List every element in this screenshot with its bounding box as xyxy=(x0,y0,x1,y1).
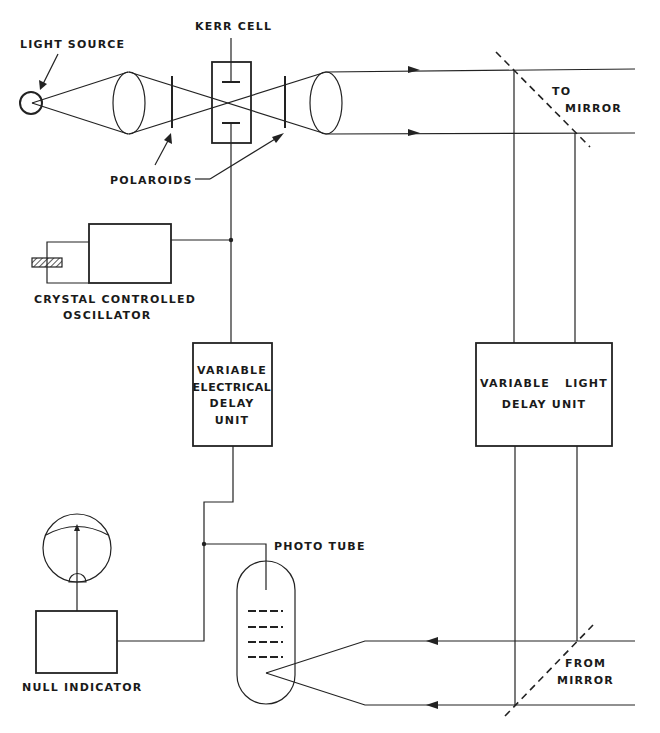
from-mirror-label-2: MIRROR xyxy=(557,674,614,687)
variable-light-delay-unit xyxy=(476,343,612,446)
from-mirror-splitter-icon xyxy=(505,625,593,716)
lens-2-icon xyxy=(310,72,342,134)
from-mirror-label-1: FROM xyxy=(565,657,606,670)
to-mirror-label-2: MIRROR xyxy=(565,102,622,115)
beam-arrow-icon xyxy=(426,637,438,645)
outgoing-beam-top xyxy=(326,69,635,72)
diagram-canvas: LIGHT SOURCE KERR CELL POLAROIDS TO MIRR… xyxy=(0,0,660,733)
elec-delay-label-2: ELECTRICAL xyxy=(193,381,272,394)
meter-needle-tip-icon xyxy=(74,524,80,531)
photo-tube-dynodes xyxy=(248,611,283,657)
oscillator-box xyxy=(89,224,171,283)
variable-electrical-delay-unit xyxy=(193,343,272,446)
elec-delay-label-4: UNIT xyxy=(215,414,250,427)
to-mirror-label-1: TO xyxy=(552,85,571,98)
light-delay-label-1: VARIABLE LIGHT xyxy=(480,377,608,390)
oscillator-label-2: OSCILLATOR xyxy=(63,309,151,322)
photo-tube-label: PHOTO TUBE xyxy=(274,540,366,553)
beam-arrow-icon xyxy=(408,129,420,136)
kerr-cell-label: KERR CELL xyxy=(195,20,272,33)
lens-1-icon xyxy=(113,72,145,134)
null-indicator-box xyxy=(36,611,117,673)
elec-delay-label-1: VARIABLE xyxy=(197,364,267,377)
beam-arrow-icon xyxy=(408,66,420,73)
null-indicator-label: NULL INDICATOR xyxy=(22,681,142,694)
polaroid-arrow-icon xyxy=(272,133,284,143)
light-delay-label-2: DELAY UNIT xyxy=(502,398,587,411)
elec-delay-label-3: DELAY xyxy=(209,397,254,410)
crystal-icon xyxy=(32,258,62,267)
polaroid-arrow-icon xyxy=(164,133,172,144)
photo-tube-wire xyxy=(204,544,266,590)
light-source-pointer xyxy=(42,54,58,86)
polaroids-label: POLAROIDS xyxy=(110,174,193,187)
light-source-icon xyxy=(20,92,42,114)
light-source-label: LIGHT SOURCE xyxy=(20,38,125,51)
light-source-arrow-icon xyxy=(39,80,47,90)
outgoing-beam-bottom xyxy=(326,133,635,134)
beam-arrow-icon xyxy=(426,701,438,709)
oscillator-label-1: CRYSTAL CONTROLLED xyxy=(34,293,196,306)
